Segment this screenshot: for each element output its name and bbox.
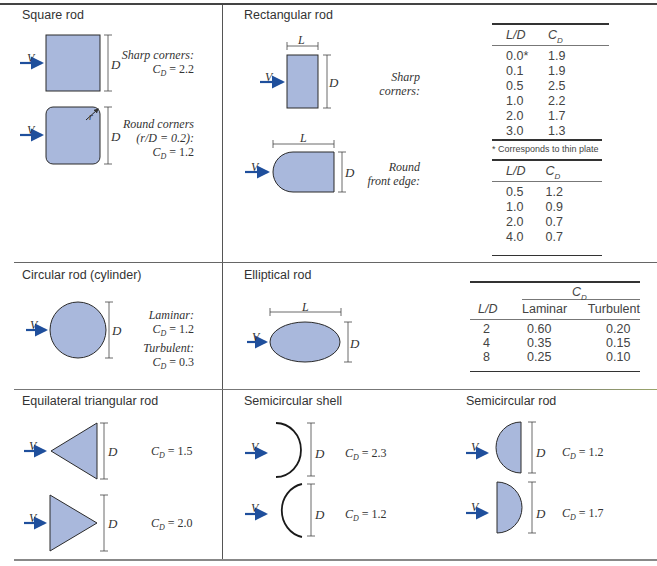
semirod-cd-2: CD = 1.7 (562, 506, 604, 522)
velocity-label: V (471, 440, 478, 455)
semirod-cd-1: CD = 1.2 (562, 445, 604, 461)
dimension-label: D (536, 506, 545, 522)
dimension-label: D (536, 445, 545, 461)
semicircular-rod-diagram (0, 0, 657, 566)
velocity-label: V (471, 500, 478, 515)
